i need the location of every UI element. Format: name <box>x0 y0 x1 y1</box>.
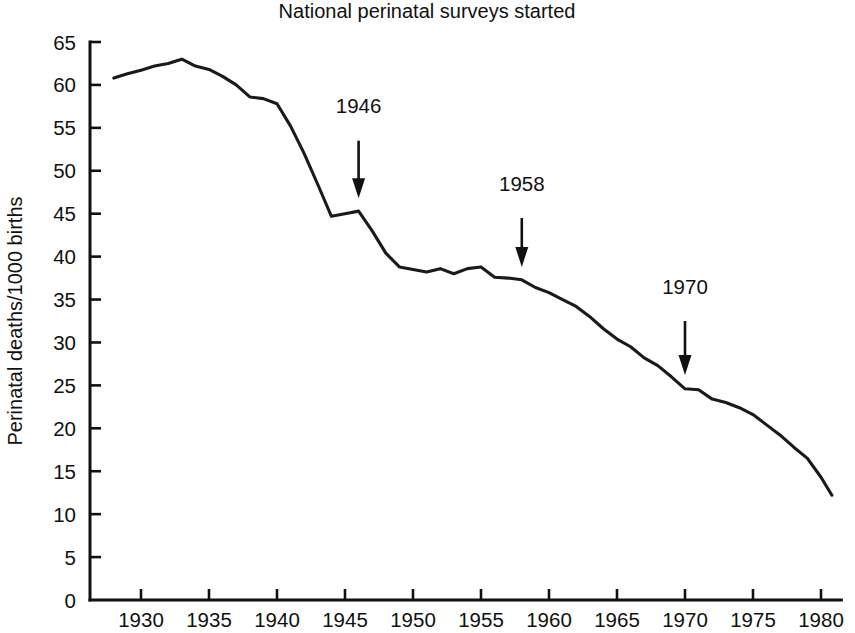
data-line-perinatal-death-rate <box>114 59 832 495</box>
x-tick-label: 1930 <box>118 608 164 631</box>
y-tick-label: 25 <box>53 374 76 397</box>
y-tick-label: 30 <box>53 331 76 354</box>
y-tick-label: 45 <box>53 202 76 225</box>
y-tick-label: 10 <box>53 503 76 526</box>
x-tick-label: 1945 <box>322 608 368 631</box>
perinatal-mortality-line-chart: National perinatal surveys started Perin… <box>0 0 855 633</box>
y-tick-label: 35 <box>53 288 76 311</box>
y-axis-label: Perinatal deaths/1000 births <box>4 196 26 445</box>
y-axis: 05101520253035404550556065 <box>53 31 101 612</box>
y-tick-label: 65 <box>53 31 76 54</box>
chart-figure: National perinatal surveys started Perin… <box>0 0 855 633</box>
annotation-arrow-head-1946 <box>352 178 365 198</box>
annotation-arrow-head-1970 <box>679 355 692 375</box>
x-tick-label: 1955 <box>458 608 504 631</box>
y-tick-label: 20 <box>53 417 76 440</box>
x-tick-label: 1950 <box>390 608 436 631</box>
annotation-label-1970: 1970 <box>662 275 708 298</box>
y-tick-label: 0 <box>65 589 76 612</box>
y-tick-label: 40 <box>53 245 76 268</box>
x-tick-label: 1970 <box>662 608 708 631</box>
x-axis: 1930193519401945195019551960196519701975… <box>118 589 844 631</box>
chart-title: National perinatal surveys started <box>279 0 576 22</box>
y-tick-label: 50 <box>53 159 76 182</box>
annotations-group: 194619581970 <box>336 94 708 376</box>
x-tick-label: 1935 <box>186 608 232 631</box>
annotation-arrow-head-1958 <box>515 247 528 267</box>
y-tick-label: 15 <box>53 460 76 483</box>
x-tick-label: 1975 <box>730 608 776 631</box>
annotation-label-1958: 1958 <box>499 172 545 195</box>
x-tick-label: 1960 <box>526 608 572 631</box>
x-tick-label: 1980 <box>798 608 844 631</box>
annotation-label-1946: 1946 <box>336 94 382 117</box>
data-series-group <box>114 59 832 495</box>
x-tick-label: 1940 <box>254 608 300 631</box>
y-tick-label: 55 <box>53 116 76 139</box>
y-tick-label: 5 <box>65 546 76 569</box>
y-tick-label: 60 <box>53 73 76 96</box>
x-tick-label: 1965 <box>594 608 640 631</box>
